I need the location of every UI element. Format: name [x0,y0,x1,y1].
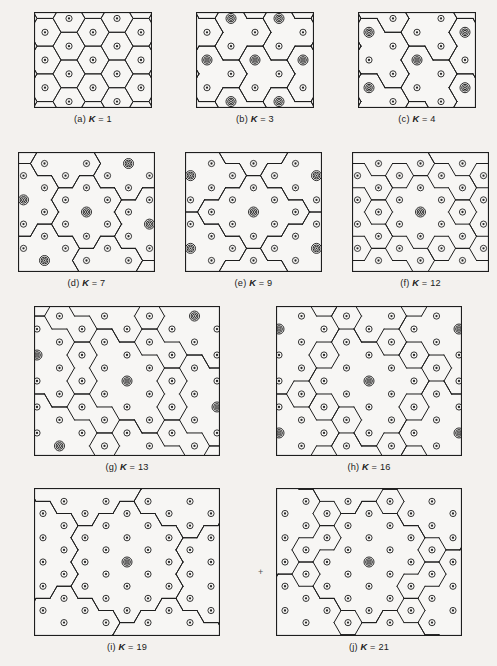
co-channel-cell-site-marker [460,83,470,93]
panel-j-caption-letter: (j) [349,642,361,652]
panel-d-caption-letter: (d) [68,278,83,288]
panel-c-canvas [358,12,476,108]
panel-i-k19: (i) K = 19 [34,488,220,636]
panel-b-caption-k-symbol: K [251,114,258,124]
co-channel-cell-site-marker [250,55,260,65]
panel-a-caption-k-symbol: K [89,114,96,124]
panel-g-caption: (g) K = 13 [34,462,220,472]
co-channel-cell-site-marker [364,557,374,567]
panel-g-canvas [34,306,220,456]
co-channel-cell-site-marker [186,171,196,181]
co-channel-cell-site-marker [274,13,284,23]
co-channel-cell-site-marker [55,441,65,451]
co-channel-cell-site-marker [298,55,308,65]
registration-cross-mark: + [258,568,263,577]
panel-b-canvas [196,12,314,108]
panel-b-caption-letter: (b) [236,114,251,124]
panel-a-k1: (a) K = 1 [34,12,152,108]
panel-h-caption-letter: (h) [347,462,362,472]
panel-i-caption: (i) K = 19 [34,642,220,652]
panel-a-caption-k-value: = 1 [96,114,112,124]
panel-h-k16: (h) K = 16 [276,306,462,456]
panel-e-caption-k-value: = 9 [256,278,272,288]
co-channel-cell-site-marker [364,83,374,93]
panel-c-caption: (c) K = 4 [358,114,476,124]
panel-j-k21: (j) K = 21 [276,488,462,636]
panel-d-caption: (d) K = 7 [18,278,155,288]
co-channel-cell-site-marker [145,219,155,229]
panel-c-caption-k-value: = 4 [419,114,435,124]
co-channel-cell-site-marker [122,376,132,386]
panel-f-k12: (f) K = 12 [352,152,489,272]
co-channel-cell-site-marker [226,97,236,107]
panel-e-k9: (e) K = 9 [185,152,322,272]
co-channel-cell-site-marker [412,55,422,65]
panel-f-caption: (f) K = 12 [352,278,489,288]
panel-d-caption-k-value: = 7 [89,278,105,288]
panel-h-caption-k-value: = 16 [369,462,391,472]
panel-f-caption-k-value: = 12 [419,278,441,288]
co-channel-cell-site-marker [122,557,132,567]
co-channel-cell-site-marker [460,27,470,37]
panel-g-caption-letter: (g) [105,462,120,472]
panel-f-caption-letter: (f) [400,278,412,288]
panel-a-canvas [34,12,152,108]
panel-h-canvas [276,306,462,456]
panel-i-canvas [34,488,220,636]
co-channel-cell-site-marker [40,256,50,266]
panel-c-caption-letter: (c) [398,114,412,124]
figure-cellular-reuse-patterns: (a) K = 1(b) K = 3(c) K = 4(d) K = 7(e) … [0,0,497,666]
co-channel-cell-site-marker [312,171,322,181]
panel-g-caption-k-symbol: K [120,462,127,472]
panel-e-caption-k-symbol: K [249,278,256,288]
panel-a-caption: (a) K = 1 [34,114,152,124]
co-channel-cell-site-marker [190,311,200,321]
panel-h-caption-k-symbol: K [362,462,369,472]
panel-a-caption-letter: (a) [74,114,89,124]
panel-j-caption-k-value: = 21 [367,642,389,652]
panel-i-caption-k-value: = 19 [125,642,147,652]
panel-e-caption: (e) K = 9 [185,278,322,288]
co-channel-cell-site-marker [249,207,259,217]
panel-b-k3: (b) K = 3 [196,12,314,108]
co-channel-cell-site-marker [274,97,284,107]
panel-b-caption: (b) K = 3 [196,114,314,124]
co-channel-cell-site-marker [19,195,29,205]
co-channel-cell-site-marker [312,243,322,253]
panel-b-caption-k-value: = 3 [258,114,274,124]
panel-j-caption: (j) K = 21 [276,642,462,652]
panel-e-caption-letter: (e) [235,278,250,288]
co-channel-cell-site-marker [416,207,426,217]
panel-d-caption-k-symbol: K [82,278,89,288]
co-channel-cell-site-marker [364,376,374,386]
panel-g-k13: (g) K = 13 [34,306,220,456]
panel-i-caption-letter: (i) [107,642,119,652]
co-channel-cell-site-marker [124,159,134,169]
co-channel-cell-site-marker [364,27,374,37]
panel-e-canvas [185,152,322,272]
co-channel-cell-site-marker [186,243,196,253]
panel-g-caption-k-value: = 13 [127,462,149,472]
panel-j-canvas [276,488,462,636]
co-channel-cell-site-marker [226,13,236,23]
panel-f-canvas [352,152,489,272]
panel-d-k7: (d) K = 7 [18,152,155,272]
panel-h-caption: (h) K = 16 [276,462,462,472]
co-channel-cell-site-marker [82,207,92,217]
co-channel-cell-site-marker [202,55,212,65]
panel-c-k4: (c) K = 4 [358,12,476,108]
panel-d-canvas [18,152,155,272]
